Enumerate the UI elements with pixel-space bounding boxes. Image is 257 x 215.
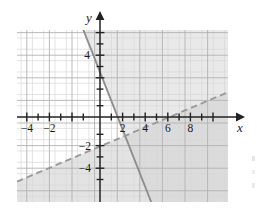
x-tick-label-8: 8 (188, 122, 194, 134)
y-tick-label-neg4: −4 (79, 162, 91, 174)
graph-figure: −4 −2 2 4 6 8 4 −2 −4 x y (0, 0, 257, 215)
y-axis-label: y (84, 10, 92, 25)
x-tick-label-4: 4 (142, 122, 148, 134)
x-tick-label-neg2: −2 (43, 122, 55, 134)
page-edge-artifact-1 (252, 156, 255, 161)
page-edge-artifact-3 (252, 183, 255, 188)
x-tick-label-6: 6 (165, 122, 171, 134)
x-tick-label-2: 2 (120, 122, 126, 134)
page-edge-artifact-2 (252, 170, 255, 174)
y-tick-label-neg2: −2 (79, 140, 91, 152)
x-tick-label-neg4: −4 (21, 122, 33, 134)
y-axis-arrow-icon (96, 11, 105, 20)
x-axis-label: x (236, 120, 243, 135)
y-tick-label-4: 4 (84, 49, 90, 61)
coordinate-plane-svg: −4 −2 2 4 6 8 4 −2 −4 x y (0, 0, 257, 215)
